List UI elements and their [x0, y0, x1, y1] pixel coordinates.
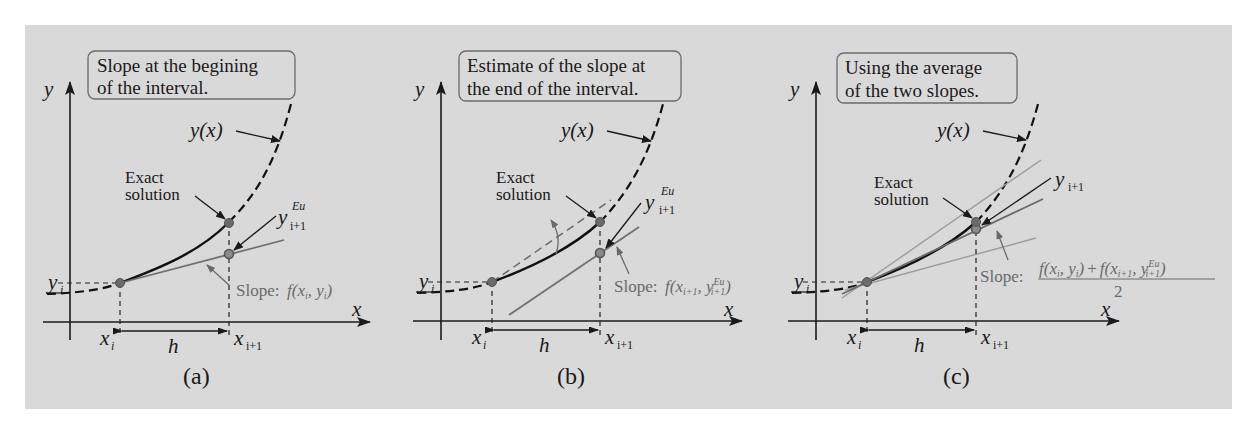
panel-b-xi-label: x — [471, 325, 482, 349]
panel-b-curve-label: y(x) — [559, 118, 594, 142]
panel-b-exact-label-line2: solution — [496, 185, 551, 204]
panel-b-xi-sub: i — [483, 338, 486, 352]
panel-c-xi1-label: x — [980, 325, 991, 349]
panel-c-exact-point — [972, 218, 981, 227]
panel-b-yi-sub: i — [431, 282, 434, 296]
panel-c-exact-label-line2: solution — [874, 190, 929, 209]
panel-c-estimate-sub: i+1 — [1068, 180, 1084, 194]
panel-a-xi1-label: x — [233, 326, 244, 350]
panel-a-slope-expr: f(xi, yi) — [287, 281, 333, 301]
panel-a-estimate-label: y — [276, 205, 288, 229]
panel-b-y-axis-label: y — [413, 77, 425, 101]
panel-c-xi-label: x — [846, 325, 857, 349]
panel-c-yi-label: y — [792, 269, 804, 293]
panel-b-xi1-sub: i+1 — [617, 338, 633, 352]
panel-b-title-line1: Estimate of the slope at — [467, 55, 646, 76]
panel-b-caption: (b) — [557, 363, 585, 389]
panel-a-estimate-sub: i+1 — [290, 219, 306, 233]
panel-c-estimate-label: y — [1053, 167, 1065, 191]
modified-euler-method-figure: Slope at the begining of the interval. y… — [0, 0, 1259, 426]
panel-b-euler-point — [596, 249, 605, 258]
panel-b-yi-label: y — [417, 269, 429, 293]
panel-c-start-point — [863, 278, 872, 287]
panel-a-curve-label: y(x) — [188, 118, 223, 142]
panel-a-xi-label: x — [99, 326, 110, 350]
panel-a-caption: (a) — [183, 363, 210, 389]
panel-c-title-line1: Using the average — [845, 57, 982, 78]
panel-b-estimate-sub: i+1 — [659, 203, 675, 217]
panel-c-curve-label: y(x) — [935, 118, 970, 142]
panel-b-slope-expr: f(xi+1, yEui+1) — [665, 276, 731, 297]
panel-a-slope-prefix: Slope: — [236, 281, 279, 300]
panel-a-xi-sub: i — [111, 339, 114, 353]
panel-a-x-axis-label: x — [351, 297, 362, 321]
panel-b-xi1-label: x — [604, 325, 615, 349]
panel-b-x-axis-label: x — [723, 297, 734, 321]
panel-a-y-axis-label: y — [42, 77, 54, 101]
panel-a-title-line1: Slope at the begining — [97, 55, 258, 76]
panel-b-exact-point — [596, 218, 605, 227]
panel-c-y-axis-label: y — [788, 77, 800, 101]
panel-a-title-line2: of the interval. — [97, 77, 208, 98]
panel-b-estimate-sup: Eu — [660, 184, 674, 198]
panel-c-yi-sub: i — [806, 282, 809, 296]
panel-a-yi-label: y — [46, 270, 58, 294]
panel-a-euler-point — [225, 250, 234, 259]
panel-a-xi1-sub: i+1 — [246, 339, 262, 353]
panel-b-estimate-label: y — [643, 190, 655, 214]
panel-b-start-point — [488, 278, 497, 287]
panel-c-xi-sub: i — [858, 338, 861, 352]
panel-c-title-line2: of the two slopes. — [845, 80, 979, 101]
panel-b-slope-prefix: Slope: — [614, 277, 657, 296]
panel-c-slope-denominator: 2 — [1114, 282, 1123, 301]
panel-a-h-label: h — [168, 334, 179, 358]
panel-c-x-axis-label: x — [1100, 297, 1111, 321]
panel-a-estimate-sup: Eu — [291, 199, 305, 213]
panel-c-slope-prefix: Slope: — [980, 267, 1023, 286]
panel-a-start-point — [116, 279, 125, 288]
panel-a-yi-sub: i — [60, 283, 63, 297]
panel-c-caption: (c) — [943, 363, 970, 389]
panel-a-exact-point — [225, 219, 234, 228]
panel-a-exact-label-line2: solution — [125, 185, 180, 204]
panel-b-h-label: h — [539, 333, 550, 357]
panel-c-h-label: h — [914, 333, 925, 357]
panel-c-xi1-sub: i+1 — [993, 338, 1009, 352]
panel-b-title-line2: the end of the interval. — [467, 78, 638, 99]
